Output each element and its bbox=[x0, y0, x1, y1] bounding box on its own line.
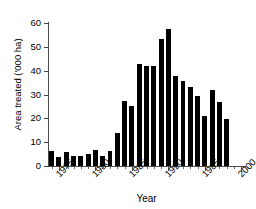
bar bbox=[129, 106, 134, 166]
y-tick-label: 40 bbox=[0, 66, 41, 76]
bar bbox=[144, 66, 149, 166]
bar bbox=[159, 39, 164, 166]
x-minor-tick bbox=[212, 167, 213, 169]
x-minor-tick bbox=[198, 167, 199, 169]
x-minor-tick bbox=[117, 167, 118, 169]
x-minor-tick bbox=[110, 167, 111, 169]
x-minor-tick bbox=[103, 167, 104, 169]
x-minor-tick bbox=[227, 167, 228, 169]
bar bbox=[49, 151, 54, 166]
x-minor-tick bbox=[190, 167, 191, 169]
x-axis-title: Year bbox=[48, 193, 245, 204]
bar bbox=[86, 154, 91, 166]
x-minor-tick bbox=[139, 167, 140, 169]
x-minor-tick bbox=[52, 167, 53, 169]
bar bbox=[78, 156, 83, 166]
x-minor-tick bbox=[183, 167, 184, 169]
bar-series bbox=[48, 23, 245, 166]
bar bbox=[71, 156, 76, 166]
x-minor-tick bbox=[74, 167, 75, 169]
x-minor-tick bbox=[125, 167, 126, 169]
bar bbox=[108, 151, 113, 166]
bar bbox=[210, 90, 215, 166]
bar bbox=[188, 87, 193, 166]
bar-chart-figure: Area treated ('000 ha) 0102030405060 197… bbox=[0, 0, 256, 209]
bar bbox=[93, 150, 98, 166]
bar bbox=[122, 101, 127, 166]
x-minor-tick bbox=[161, 167, 162, 169]
bar bbox=[100, 156, 105, 166]
bar bbox=[137, 64, 142, 166]
x-minor-tick bbox=[88, 167, 89, 169]
y-tick-label: 20 bbox=[0, 113, 41, 123]
bar bbox=[115, 133, 120, 166]
y-tick-mark bbox=[44, 166, 48, 167]
bar bbox=[224, 119, 229, 166]
bar bbox=[202, 116, 207, 166]
x-minor-tick bbox=[234, 167, 235, 169]
bar bbox=[56, 157, 61, 166]
y-tick-label: 60 bbox=[0, 18, 41, 28]
y-tick-label: 10 bbox=[0, 137, 41, 147]
bar bbox=[151, 66, 156, 166]
x-minor-tick bbox=[66, 167, 67, 169]
bar bbox=[195, 96, 200, 166]
bar bbox=[64, 152, 69, 166]
bar bbox=[166, 29, 171, 166]
x-minor-tick bbox=[219, 167, 220, 169]
bar bbox=[173, 76, 178, 166]
x-minor-tick bbox=[147, 167, 148, 169]
x-minor-tick bbox=[81, 167, 82, 169]
y-tick-label: 30 bbox=[0, 90, 41, 100]
x-minor-tick bbox=[176, 167, 177, 169]
bar bbox=[217, 102, 222, 166]
bar bbox=[181, 81, 186, 166]
x-minor-tick bbox=[154, 167, 155, 169]
y-tick-label: 0 bbox=[0, 161, 41, 171]
y-tick-label: 50 bbox=[0, 42, 41, 52]
